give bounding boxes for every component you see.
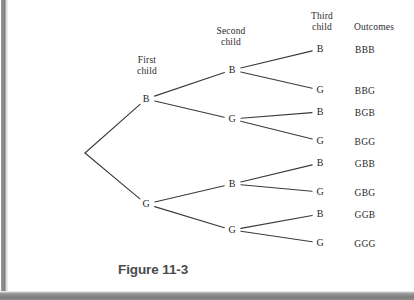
outcome-BGG: BGG (348, 137, 382, 147)
tree-node-n3-BBB: B (313, 44, 327, 54)
tree-branch-n2-BG-to-n3-BGB (241, 113, 312, 119)
tree-branch-n2-GB-to-n3-GBB (241, 165, 312, 182)
page-frame-left-border (0, 0, 8, 300)
outcome-GGG: GGG (348, 239, 382, 249)
column-header-line1: Outcomes (348, 22, 400, 33)
tree-branch-n2-BB-to-n3-BBG (241, 72, 312, 88)
figure-caption: Figure 11-3 (118, 262, 188, 277)
column-header-first-child: First child (127, 55, 167, 77)
page-frame-bottom-border (0, 291, 414, 300)
tree-node-n2-GG: G (225, 225, 239, 235)
column-header-second-child: Second child (207, 26, 255, 48)
tree-branch-n1-G-to-n2-GG (155, 207, 225, 228)
tree-branch-root-to-n1-G (85, 153, 140, 199)
outcome-BBB: BBB (348, 45, 382, 55)
column-header-line2: child (127, 66, 167, 77)
tree-node-n1-G: G (139, 199, 153, 209)
tree-branch-n2-GG-to-n3-GGB (241, 215, 312, 228)
column-header-line1: First (127, 55, 167, 66)
tree-node-n3-GBG: G (313, 187, 327, 197)
outcome-BGB: BGB (348, 108, 382, 118)
tree-node-n1-B: B (139, 94, 153, 104)
tree-branch-root-to-n1-B (85, 104, 140, 153)
column-header-outcomes: Outcomes (348, 22, 400, 33)
tree-node-n3-BBG: G (313, 85, 327, 95)
tree-node-n3-BGG: G (313, 136, 327, 146)
tree-branch-n1-G-to-n2-GB (155, 186, 224, 202)
tree-branch-n2-BG-to-n3-BGG (241, 121, 313, 139)
tree-node-n3-GBB: B (313, 158, 327, 168)
tree-branch-n2-GB-to-n3-GBG (241, 185, 312, 191)
column-header-line2: child (207, 37, 255, 48)
tree-node-n3-GGB: B (313, 209, 327, 219)
outcome-BBG: BBG (348, 86, 382, 96)
outcome-GBB: GBB (348, 159, 382, 169)
tree-edges (85, 51, 312, 242)
tree-node-n2-BB: B (225, 65, 239, 75)
column-header-line2: child (303, 22, 341, 33)
tree-node-n3-GGG: G (313, 238, 327, 248)
outcome-GGB: GGB (348, 210, 382, 220)
column-header-line1: Third (303, 11, 341, 22)
column-header-third-child: Third child (303, 11, 341, 33)
column-header-line1: Second (207, 26, 255, 37)
figure-page: First child Second child Third child Out… (0, 0, 414, 300)
tree-branch-n1-B-to-n2-BG (155, 101, 224, 117)
tree-node-n2-BG: G (225, 114, 239, 124)
tree-node-n3-BGB: B (313, 107, 327, 117)
outcome-GBG: GBG (348, 188, 382, 198)
tree-node-n2-GB: B (225, 179, 239, 189)
tree-branch-n2-BB-to-n3-BBB (241, 51, 312, 68)
tree-branch-n2-GG-to-n3-GGG (241, 231, 312, 242)
